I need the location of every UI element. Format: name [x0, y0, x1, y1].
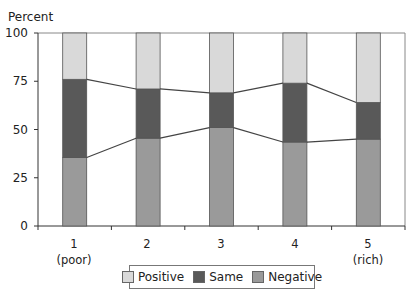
- legend-label: Positive: [138, 270, 184, 284]
- bar-segment-same: [283, 83, 307, 142]
- x-tick-label-4: 4: [265, 236, 325, 252]
- bar-segment-negative: [136, 138, 160, 226]
- negative-swatch-icon: [252, 271, 264, 283]
- bar-segment-same: [356, 102, 380, 139]
- x-tick-label-3: 3: [191, 236, 251, 252]
- bar-segment-positive: [356, 33, 380, 102]
- bar-segment-negative: [356, 139, 380, 226]
- bar-segment-same: [210, 93, 234, 128]
- bar-segment-positive: [63, 33, 87, 79]
- same-swatch-icon: [193, 271, 205, 283]
- legend-item-positive: Positive: [122, 270, 184, 284]
- positive-swatch-icon: [122, 271, 134, 283]
- bar-segment-negative: [283, 142, 307, 226]
- legend-label: Negative: [268, 270, 322, 284]
- legend-item-same: Same: [193, 270, 243, 284]
- bar-segment-negative: [63, 157, 87, 226]
- x-tick-label-5: 5(rich): [338, 236, 398, 268]
- x-tick-label-1: 1(poor): [44, 236, 104, 268]
- bar-segment-positive: [136, 33, 160, 89]
- bar-segment-positive: [210, 33, 234, 93]
- x-tick-label-2: 2: [117, 236, 177, 252]
- bar-segment-same: [136, 89, 160, 138]
- legend: Positive Same Negative: [129, 265, 315, 289]
- bar-segment-same: [63, 79, 87, 157]
- legend-label: Same: [209, 270, 243, 284]
- bar-segment-positive: [283, 33, 307, 83]
- legend-item-negative: Negative: [252, 270, 322, 284]
- bar-segment-negative: [210, 128, 234, 226]
